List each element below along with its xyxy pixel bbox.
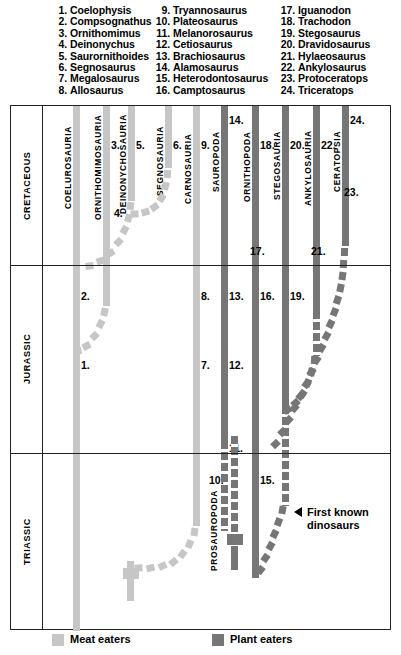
taxon-marker-4: 4. bbox=[114, 207, 123, 219]
key-item-name: Deinonychus bbox=[70, 38, 135, 50]
lineage-segment-deinonychosauria bbox=[85, 262, 94, 270]
group-label-deinonychosauria: DEINONYCHOSAURIA bbox=[118, 114, 128, 214]
key-item-name: Brachiosaurus bbox=[173, 50, 245, 62]
lineage-segment-ceratopsia bbox=[340, 260, 348, 268]
key-column: 9.Tryannosaurus10.Plateosaurus11.Melanor… bbox=[155, 5, 268, 96]
key-item-name: Heterodontosaurus bbox=[173, 72, 268, 84]
key-item-name: Ornithomimus bbox=[70, 27, 141, 39]
lineage-bar-carnosauria bbox=[193, 106, 200, 526]
group-label-prosauropoda: PROSAUROPODA bbox=[209, 476, 219, 571]
lineage-bar-ankylosauria bbox=[313, 106, 320, 311]
group-label-coelurosauria: COELUROSAURIA bbox=[63, 114, 73, 209]
key-list-item: 24.Triceratops bbox=[280, 85, 370, 96]
key-item-name: Protoceratops bbox=[298, 72, 368, 84]
lineage-segment-stegosauria bbox=[274, 517, 283, 527]
lineage-segment-carnosauria bbox=[168, 557, 179, 568]
lineage-segment-ceratopsia bbox=[333, 295, 342, 305]
taxon-marker-9: 9. bbox=[201, 139, 210, 151]
key-item-number: 8. bbox=[52, 85, 67, 96]
lineage-segment-ornithomimosauria bbox=[89, 331, 100, 342]
key-item-name: Ankylosaurus bbox=[298, 61, 366, 73]
taxon-marker-12: 12. bbox=[229, 359, 244, 371]
key-list-item: 8.Allosaurus bbox=[52, 85, 152, 96]
key-item-number: 20. bbox=[280, 39, 295, 50]
period-label-jurassic: JURASSIC bbox=[11, 265, 43, 453]
lineage-bar-stegosauria bbox=[282, 106, 289, 406]
lineage-segment-ceratopsia bbox=[321, 331, 331, 341]
annotation-line-1: First known bbox=[307, 506, 369, 519]
lineage-segment-carnosauria bbox=[157, 561, 167, 571]
lineage-bar-coelurosauria bbox=[73, 106, 80, 631]
lineage-segment-deinonychosauria bbox=[113, 237, 124, 248]
group-label-carnosauria: CARNOSAURIA bbox=[183, 114, 193, 204]
lineage-segment-carnosauria bbox=[146, 564, 155, 573]
key-item-name: Compsognathus bbox=[70, 15, 152, 27]
legend-swatch-plant bbox=[212, 634, 224, 646]
lineage-bar-deinonychosauria bbox=[128, 106, 135, 201]
group-label-ornithomimosauria: ORNITHOMIMOSAURIA bbox=[93, 114, 103, 220]
key-item-name: Allosaurus bbox=[70, 84, 123, 96]
group-label-sauropoda: SAUROPODA bbox=[211, 114, 221, 192]
period-axis-column: CRETACEOUSJURASSICTRIASSIC bbox=[11, 106, 43, 629]
period-label-triassic: TRIASSIC bbox=[11, 453, 43, 631]
key-item-name: Triceratops bbox=[298, 84, 354, 96]
taxon-marker-7: 7. bbox=[201, 359, 210, 371]
key-item-name: Trachodon bbox=[298, 15, 351, 27]
lineage-segment-deinonychosauria bbox=[119, 225, 129, 235]
key-item-name: Plateosaurus bbox=[173, 15, 238, 27]
lineage-bar-ornithomimosauria bbox=[103, 106, 110, 306]
key-item-name: Megalosaurus bbox=[70, 72, 139, 84]
key-column: 17.Iguanodon18.Trachodon19.Stegosaurus20… bbox=[280, 5, 370, 96]
lineage-segment-stegosauria bbox=[270, 529, 280, 539]
key-item-name: Cetiosaurus bbox=[173, 38, 233, 50]
chart-legend: Meat eaters Plant eaters bbox=[0, 615, 401, 655]
taxon-marker-13: 13. bbox=[229, 290, 244, 302]
taxon-marker-16: 16. bbox=[260, 290, 275, 302]
taxon-marker-24: 24. bbox=[350, 114, 365, 126]
key-item-number: 16. bbox=[155, 85, 170, 96]
lineage-segment-segnosauria bbox=[161, 181, 170, 191]
key-column: 1.Coelophysis2.Compsognathus3.Ornithomim… bbox=[52, 5, 152, 96]
lineage-bar-ornithopoda bbox=[252, 106, 259, 578]
lineage-segment-carnosauria bbox=[185, 539, 194, 549]
left-arrow-icon bbox=[294, 507, 302, 517]
lineage-segment-stegosauria bbox=[260, 553, 270, 564]
legend-label-meat: Meat eaters bbox=[70, 633, 131, 645]
key-item-name: Stegosaurus bbox=[298, 27, 361, 39]
key-item-name: Coelophysis bbox=[70, 4, 131, 16]
lineage-segment-ceratopsia bbox=[341, 248, 348, 256]
taxon-marker-23: 23. bbox=[344, 186, 359, 198]
group-label-ankylosauria: ANKYLOSAURIA bbox=[303, 114, 313, 206]
key-item-name: Segnosaurus bbox=[70, 61, 135, 73]
evolution-chart: CRETACEOUSJURASSICTRIASSIC COELUROSAURIA… bbox=[10, 105, 391, 630]
key-item-name: Saurornithoides bbox=[70, 50, 149, 62]
group-label-ornithopoda: ORNITHOPODA bbox=[242, 114, 252, 202]
taxon-marker-5: 5. bbox=[136, 139, 145, 151]
taxon-marker-1: 1. bbox=[81, 359, 90, 371]
taxon-marker-17: 17. bbox=[250, 245, 265, 257]
period-boundary-line bbox=[11, 453, 390, 454]
chart-plot-area: COELUROSAURIA1.2.ORNITHOMIMOSAURIA3.DEIN… bbox=[43, 106, 390, 629]
taxon-marker-19: 19. bbox=[290, 290, 305, 302]
key-item-number: 12. bbox=[155, 39, 170, 50]
lineage-segment-stegosauria bbox=[278, 505, 286, 514]
lineage-segment-ceratopsia bbox=[336, 283, 345, 292]
lineage-segment-segnosauria bbox=[164, 170, 172, 178]
taxon-marker-10: 10. bbox=[209, 474, 224, 486]
group-label-ceratopsia: CERATOPSIA bbox=[332, 114, 342, 192]
key-item-name: Camptosaurus bbox=[173, 84, 245, 96]
lineage-tail-prosauropoda bbox=[231, 546, 238, 570]
lineage-bar-ceratopsia bbox=[342, 106, 349, 246]
key-item-name: Tryannosaurus bbox=[173, 4, 247, 16]
annotation-first-known-dinosaurs: First knowndinosaurs bbox=[307, 506, 369, 532]
lineage-segment-ornithomimosauria bbox=[96, 319, 106, 329]
lineage-bar-sauropoda-lower bbox=[221, 441, 228, 531]
lineage-segment-ceratopsia bbox=[270, 439, 281, 450]
lineage-root-tail-meat bbox=[127, 579, 134, 601]
group-label-stegosauria: STEGOSAURIA bbox=[272, 114, 282, 200]
period-label-cretaceous: CRETACEOUS bbox=[11, 106, 43, 265]
taxon-marker-15: 15. bbox=[260, 474, 275, 486]
lineage-segment-ceratopsia bbox=[338, 272, 346, 281]
lineage-segment-ceratopsia bbox=[330, 307, 339, 317]
key-list-item: 16.Camptosaurus bbox=[155, 85, 268, 96]
